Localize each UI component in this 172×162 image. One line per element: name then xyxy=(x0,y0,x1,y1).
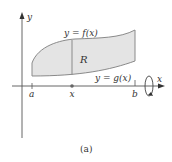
y-axis-arrow-icon xyxy=(20,12,25,19)
x-axis-arrow-icon xyxy=(158,84,165,89)
tick-label-b: b xyxy=(132,89,138,99)
tick-label-x: x xyxy=(70,89,75,99)
tick-label-a: a xyxy=(29,89,34,99)
curve-f-label: y = f(x) xyxy=(63,28,98,38)
curve-g-label: y = g(x) xyxy=(94,73,132,83)
figure-caption: (a) xyxy=(80,144,92,154)
solid-of-revolution-diagram: y x y = f(x) y = g(x) R a x b (a) xyxy=(0,0,172,162)
region-label: R xyxy=(79,54,88,65)
y-axis-label: y xyxy=(26,12,33,22)
x-axis-label: x xyxy=(157,74,162,84)
point-x-dot xyxy=(70,84,74,88)
